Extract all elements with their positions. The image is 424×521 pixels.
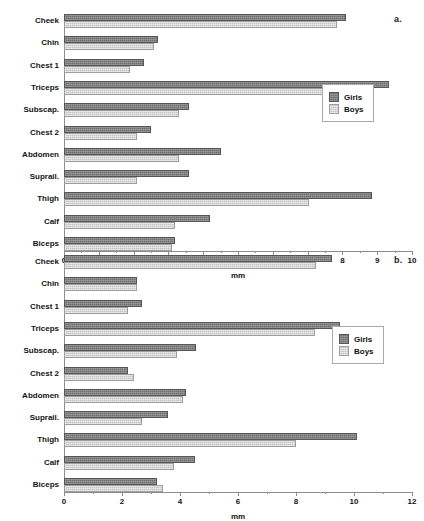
- category-label-chin: Chin: [41, 280, 59, 288]
- bar-girls-suprail: [64, 411, 168, 418]
- bar-girls-abdomen: [64, 389, 186, 396]
- legend-swatch-girls-icon: [339, 334, 349, 344]
- plot-area-b: CheekChinChest 1TricepsSubscap.Chest 2Ab…: [64, 255, 412, 492]
- bar-boys-chest-1: [64, 66, 130, 73]
- bar-boys-calf: [64, 222, 175, 229]
- category-label-chest-2: Chest 2: [30, 129, 59, 137]
- bar-boys-chest-2: [64, 133, 137, 140]
- category-label-abdomen: Abdomen: [22, 392, 59, 400]
- legend-b: Girls Boys: [332, 326, 384, 364]
- x-tick-label: 8: [294, 497, 298, 506]
- category-label-triceps: Triceps: [31, 84, 59, 92]
- bar-boys-calf: [64, 463, 174, 470]
- bar-boys-abdomen: [64, 396, 183, 403]
- bar-girls-cheek: [64, 255, 332, 262]
- category-label-suprail: Suprail.: [30, 414, 59, 422]
- legend-swatch-boys-icon: [339, 346, 349, 356]
- x-major-tick: [238, 492, 239, 496]
- bar-rows-b: CheekChinChest 1TricepsSubscap.Chest 2Ab…: [64, 255, 412, 492]
- category-label-subscap: Subscap.: [23, 106, 59, 114]
- category-label-chest-2: Chest 2: [30, 370, 59, 378]
- category-label-thigh: Thigh: [37, 195, 59, 203]
- bar-rows-a: CheekChinChest 1TricepsSubscap.Chest 2Ab…: [64, 14, 412, 251]
- category-label-thigh: Thigh: [37, 436, 59, 444]
- category-label-chest-1: Chest 1: [30, 62, 59, 70]
- legend-label-girls: Girls: [344, 93, 362, 102]
- legend-row-girls-b: Girls: [339, 334, 374, 344]
- bar-boys-chest-2: [64, 374, 134, 381]
- category-label-abdomen: Abdomen: [22, 151, 59, 159]
- category-label-suprail: Suprail.: [30, 173, 59, 181]
- x-axis-title-b: mm: [64, 512, 412, 521]
- bar-boys-thigh: [64, 199, 309, 206]
- x-minor-tick: [151, 492, 152, 494]
- bar-boys-biceps: [64, 485, 163, 492]
- x-tick-label: 4: [178, 497, 182, 506]
- x-tick-label: 10: [350, 497, 359, 506]
- bar-girls-chin: [64, 36, 158, 43]
- bar-girls-suprail: [64, 170, 189, 177]
- bar-boys-triceps: [64, 88, 335, 95]
- category-label-chin: Chin: [41, 39, 59, 47]
- bar-girls-cheek: [64, 14, 346, 21]
- bar-girls-calf: [64, 215, 210, 222]
- category-label-triceps: Triceps: [31, 325, 59, 333]
- x-minor-tick: [93, 492, 94, 494]
- legend-row-girls-a: Girls: [329, 92, 364, 102]
- legend-swatch-girls-icon: [329, 92, 339, 102]
- bar-girls-chin: [64, 277, 137, 284]
- x-tick-label: 12: [408, 497, 417, 506]
- bar-girls-chest-1: [64, 300, 142, 307]
- plot-area-a: CheekChinChest 1TricepsSubscap.Chest 2Ab…: [64, 14, 412, 251]
- legend-row-boys-b: Boys: [339, 346, 374, 356]
- legend-label-girls: Girls: [354, 335, 372, 344]
- bar-boys-suprail: [64, 177, 137, 184]
- bar-girls-abdomen: [64, 148, 221, 155]
- bar-boys-chest-1: [64, 307, 128, 314]
- legend-label-boys: Boys: [344, 105, 364, 114]
- x-axis-ticks-b: 024681012: [64, 492, 412, 510]
- x-tick-label: 6: [236, 497, 240, 506]
- x-tick-label: 0: [62, 497, 66, 506]
- x-tick-label: 2: [120, 497, 124, 506]
- bar-boys-triceps: [64, 329, 315, 336]
- x-major-tick: [64, 492, 65, 496]
- category-label-cheek: Cheek: [35, 258, 59, 266]
- category-label-biceps: Biceps: [33, 481, 59, 489]
- x-minor-tick: [383, 492, 384, 494]
- bar-girls-thigh: [64, 433, 357, 440]
- category-label-calf: Calf: [44, 218, 59, 226]
- legend-row-boys-a: Boys: [329, 104, 364, 114]
- bar-boys-chin: [64, 284, 137, 291]
- bar-boys-chin: [64, 43, 154, 50]
- x-major-tick: [180, 492, 181, 496]
- bar-boys-abdomen: [64, 155, 179, 162]
- x-major-tick: [122, 492, 123, 496]
- bar-girls-chest-2: [64, 126, 151, 133]
- chart-panel-b: b. CheekChinChest 1TricepsSubscap.Chest …: [0, 240, 424, 486]
- x-minor-tick: [267, 492, 268, 494]
- legend-swatch-boys-icon: [329, 104, 339, 114]
- x-major-tick: [354, 492, 355, 496]
- bar-boys-subscap: [64, 110, 179, 117]
- bar-girls-chest-2: [64, 367, 128, 374]
- chart-panel-a: a. CheekChinChest 1TricepsSubscap.Chest …: [0, 0, 424, 243]
- legend-label-boys: Boys: [354, 347, 374, 356]
- bar-girls-calf: [64, 456, 195, 463]
- bar-girls-chest-1: [64, 59, 144, 66]
- x-major-tick: [296, 492, 297, 496]
- x-minor-tick: [209, 492, 210, 494]
- category-label-calf: Calf: [44, 459, 59, 467]
- bar-girls-subscap: [64, 344, 196, 351]
- legend-a: Girls Boys: [322, 84, 374, 122]
- category-label-chest-1: Chest 1: [30, 303, 59, 311]
- bar-girls-thigh: [64, 192, 372, 199]
- bar-boys-cheek: [64, 262, 316, 269]
- x-major-tick: [412, 492, 413, 496]
- bar-girls-subscap: [64, 103, 189, 110]
- bar-boys-subscap: [64, 351, 177, 358]
- category-label-subscap: Subscap.: [23, 347, 59, 355]
- bar-girls-triceps: [64, 322, 340, 329]
- bar-boys-thigh: [64, 440, 296, 447]
- bar-boys-cheek: [64, 21, 337, 28]
